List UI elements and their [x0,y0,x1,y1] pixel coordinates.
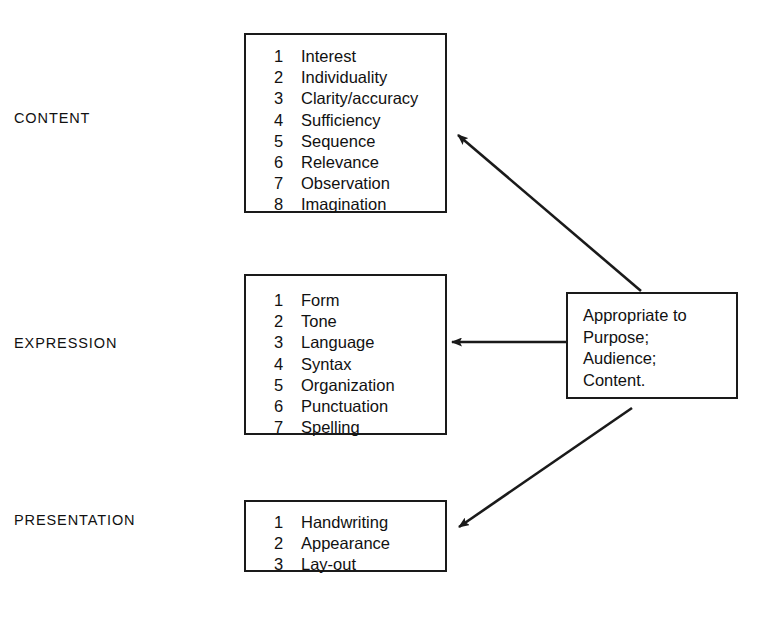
list-item: 7 Spelling [274,417,445,438]
item-label: Organization [301,375,445,396]
item-label: Interest [301,46,445,67]
item-number: 5 [274,131,301,152]
summary-line: Purpose; [583,327,736,349]
criteria-list-presentation: 1 Handwriting 2 Appearance 3 Lay-out [274,512,445,576]
item-label: Sequence [301,131,445,152]
summary-line: Audience; [583,348,736,370]
list-item: 5 Sequence [274,131,445,152]
list-item: 5 Organization [274,375,445,396]
item-label: Form [301,290,445,311]
item-number: 2 [274,311,301,332]
criteria-box-presentation: 1 Handwriting 2 Appearance 3 Lay-out [244,500,447,572]
item-number: 5 [274,375,301,396]
list-item: 3 Language [274,332,445,353]
list-item: 1 Handwriting [274,512,445,533]
list-item: 2 Tone [274,311,445,332]
summary-list: Appropriate to Purpose; Audience; Conten… [583,305,736,391]
item-label: Imagination [301,194,445,215]
criteria-list-expression: 1 Form 2 Tone 3 Language 4 Syntax 5 Orga… [274,290,445,438]
item-number: 3 [274,554,301,575]
category-label-expression: EXPRESSION [14,335,117,351]
list-item: 8 Imagination [274,194,445,215]
item-label: Tone [301,311,445,332]
item-number: 4 [274,354,301,375]
item-number: 1 [274,512,301,533]
item-number: 7 [274,173,301,194]
item-number: 7 [274,417,301,438]
criteria-list-content: 1 Interest 2 Individuality 3 Clarity/acc… [274,46,445,216]
item-number: 2 [274,67,301,88]
connector-summary-to-presentation [459,408,632,527]
criteria-box-expression: 1 Form 2 Tone 3 Language 4 Syntax 5 Orga… [244,274,447,435]
list-item: 2 Individuality [274,67,445,88]
list-item: 2 Appearance [274,533,445,554]
item-label: Lay-out [301,554,445,575]
item-label: Handwriting [301,512,445,533]
item-number: 4 [274,110,301,131]
item-label: Appearance [301,533,445,554]
diagram-canvas: CONTENT 1 Interest 2 Individuality 3 Cla… [0,0,763,621]
item-label: Language [301,332,445,353]
category-label-content: CONTENT [14,110,90,126]
item-number: 1 [274,290,301,311]
item-number: 1 [274,46,301,67]
list-item: 1 Form [274,290,445,311]
list-item: 3 Clarity/accuracy [274,88,445,109]
item-number: 6 [274,152,301,173]
item-number: 8 [274,194,301,215]
item-number: 3 [274,332,301,353]
item-label: Observation [301,173,445,194]
summary-line: Appropriate to [583,305,736,327]
list-item: 4 Syntax [274,354,445,375]
item-label: Individuality [301,67,445,88]
item-label: Punctuation [301,396,445,417]
category-label-presentation: PRESENTATION [14,512,135,528]
item-number: 3 [274,88,301,109]
item-label: Spelling [301,417,445,438]
list-item: 6 Relevance [274,152,445,173]
item-label: Relevance [301,152,445,173]
summary-line: Content. [583,370,736,392]
item-number: 2 [274,533,301,554]
item-label: Sufficiency [301,110,445,131]
list-item: 4 Sufficiency [274,110,445,131]
connector-summary-to-content [458,135,641,291]
list-item: 6 Punctuation [274,396,445,417]
summary-box-appropriate: Appropriate to Purpose; Audience; Conten… [566,292,738,399]
list-item: 3 Lay-out [274,554,445,575]
criteria-box-content: 1 Interest 2 Individuality 3 Clarity/acc… [244,33,447,213]
list-item: 7 Observation [274,173,445,194]
item-number: 6 [274,396,301,417]
item-label: Syntax [301,354,445,375]
item-label: Clarity/accuracy [301,88,445,109]
list-item: 1 Interest [274,46,445,67]
